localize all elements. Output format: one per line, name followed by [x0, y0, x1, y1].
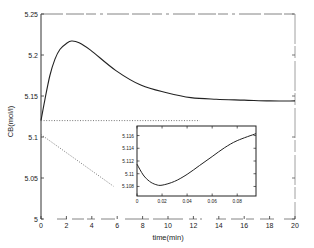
x-tick-label: 14	[215, 222, 223, 229]
x-tick-label: 18	[266, 222, 274, 229]
chart-canvas: 55.055.15.155.25.2502468101214161820time…	[0, 0, 314, 248]
y-tick-label: 5.2	[28, 52, 38, 59]
inset-x-tick-label: 0.02	[157, 199, 167, 204]
inset-x-tick-label: 0.08	[233, 199, 243, 204]
x-axis-label: time(min)	[152, 233, 184, 242]
y-axis-label: CB(mol/l)	[6, 105, 15, 137]
inset-plot: 5.1085.115.1125.1145.11600.020.040.060.0…	[122, 126, 256, 204]
x-tick-label: 12	[190, 222, 198, 229]
inset-x-tick-label: 0.06	[207, 199, 217, 204]
cb-response-curve	[41, 41, 295, 121]
x-tick-label: 10	[164, 222, 172, 229]
inset-x-tick-label: 0.04	[182, 199, 192, 204]
x-tick-label: 20	[291, 222, 299, 229]
y-tick-label: 5	[34, 216, 38, 223]
y-tick-label: 5.25	[24, 11, 38, 18]
y-tick-label: 5.1	[28, 134, 38, 141]
inset-y-tick-label: 5.108	[122, 184, 134, 189]
x-tick-label: 6	[115, 222, 119, 229]
inset-y-tick-label: 5.116	[122, 134, 134, 139]
x-tick-label: 0	[39, 222, 43, 229]
inset-y-tick-label: 5.11	[125, 172, 134, 177]
inset-y-tick-label: 5.114	[122, 146, 134, 151]
x-tick-label: 8	[141, 222, 145, 229]
y-tick-label: 5.05	[24, 175, 38, 182]
inset-x-tick-label: 0	[136, 199, 139, 204]
x-tick-label: 16	[240, 222, 248, 229]
initial-slope-line	[41, 135, 113, 187]
x-tick-label: 4	[90, 222, 94, 229]
inset-y-tick-label: 5.112	[122, 159, 134, 164]
y-tick-label: 5.15	[24, 93, 38, 100]
x-tick-label: 2	[64, 222, 68, 229]
inset-frame	[137, 126, 256, 196]
